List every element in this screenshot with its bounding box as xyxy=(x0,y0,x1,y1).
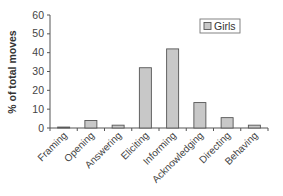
legend-swatch-girls xyxy=(204,23,211,30)
y-tick-label: 40 xyxy=(32,46,44,58)
bar-directing xyxy=(221,118,233,128)
y-axis: 0102030405060 xyxy=(32,9,50,134)
bar-opening xyxy=(85,120,97,128)
legend-label-girls: Girls xyxy=(214,20,236,32)
bar-informing xyxy=(167,49,179,128)
legend: Girls xyxy=(200,19,240,33)
y-tick-label: 10 xyxy=(32,103,44,115)
x-axis-category-labels: FramingOpeningAnsweringElicitingInformin… xyxy=(35,130,259,185)
y-tick-label: 0 xyxy=(38,122,44,134)
bar-answering xyxy=(112,125,124,128)
y-axis-label: % of total moves xyxy=(6,30,18,114)
bar-framing xyxy=(58,127,70,128)
y-tick-label: 50 xyxy=(32,27,44,39)
y-tick-label: 30 xyxy=(32,65,44,77)
y-tick-label: 60 xyxy=(32,9,44,21)
bar-acknowledging xyxy=(194,103,206,128)
x-axis xyxy=(50,128,268,131)
bar-eliciting xyxy=(139,68,151,128)
y-tick-label: 20 xyxy=(32,84,44,96)
bar-series-girls xyxy=(58,49,261,128)
bar-behaving xyxy=(248,125,260,128)
bar-chart: % of total moves 0102030405060 FramingOp… xyxy=(0,0,283,196)
